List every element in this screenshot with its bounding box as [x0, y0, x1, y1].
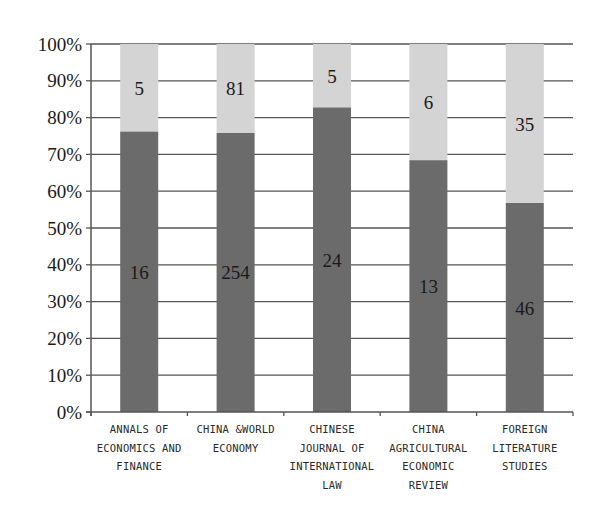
x-category-label: CHINESE [309, 423, 355, 435]
x-category-label: AGRICULTURAL [389, 442, 467, 454]
x-category-label: ECONOMIC [402, 460, 454, 472]
y-tick-label: 40% [47, 254, 82, 275]
bar-value-bottom: 13 [419, 276, 438, 297]
y-tick-label: 100% [38, 34, 83, 55]
bar-value-bottom: 46 [515, 298, 534, 319]
y-tick-label: 80% [47, 107, 82, 128]
y-tick-label: 20% [47, 328, 82, 349]
x-category-label: LAW [322, 479, 342, 491]
x-axis-category-labels: ANNALS OFECONOMICS ANDFINANCECHINA &WORL… [97, 423, 558, 491]
y-tick-label: 0% [57, 402, 83, 423]
bar-value-top: 5 [327, 66, 337, 87]
bar-value-top: 6 [424, 92, 434, 113]
y-axis-tick-labels: 0%10%20%30%40%50%60%70%80%90%100% [38, 34, 83, 423]
bar-value-bottom: 254 [221, 262, 250, 283]
y-tick-label: 10% [47, 365, 82, 386]
bar-value-bottom: 24 [323, 250, 343, 271]
y-tick-label: 60% [47, 181, 82, 202]
x-category-label: FINANCE [116, 460, 162, 472]
bar-value-bottom: 16 [130, 262, 149, 283]
y-tick-label: 70% [47, 144, 82, 165]
x-category-label: ANNALS OF [110, 423, 169, 435]
bar-value-top: 81 [226, 78, 245, 99]
x-category-label: LITERATURE [492, 442, 557, 454]
x-category-label: CHINA [412, 423, 445, 435]
x-category-label: ECONOMY [213, 442, 259, 454]
bar-value-top: 35 [515, 114, 534, 135]
x-category-label: INTERNATIONAL [290, 460, 375, 472]
x-category-label: JOURNAL OF [299, 442, 364, 454]
x-category-label: STUDIES [502, 460, 548, 472]
bar-value-top: 5 [134, 78, 144, 99]
x-category-label: CHINA &WORLD [196, 423, 274, 435]
y-tick-label: 90% [47, 70, 82, 91]
y-tick-label: 30% [47, 291, 82, 312]
x-category-label: FOREIGN [502, 423, 548, 435]
stacked-percent-bar-chart: 0%10%20%30%40%50%60%70%80%90%100% ANNALS… [0, 0, 610, 528]
y-tick-label: 50% [47, 218, 82, 239]
x-category-label: REVIEW [409, 479, 449, 491]
x-category-label: ECONOMICS AND [97, 442, 182, 454]
